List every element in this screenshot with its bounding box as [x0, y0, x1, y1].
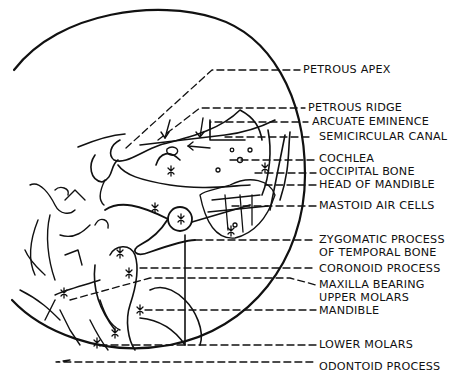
anatomy-diagram: PETROUS APEX PETROUS RIDGE ARCUATE EMINE…	[0, 0, 472, 379]
label-mastoid-air-cells: MASTOID AIR CELLS	[319, 200, 435, 212]
label-cochlea: COCHLEA	[319, 153, 374, 165]
label-semicircular-canal: SEMICIRCULAR CANAL	[319, 131, 447, 143]
label-mandible: MANDIBLE	[319, 305, 379, 317]
label-head-of-mandible: HEAD OF MANDIBLE	[319, 179, 435, 191]
leader-lines	[56, 70, 316, 362]
label-coronoid-process: CORONOID PROCESS	[319, 263, 440, 275]
label-lower-molars: LOWER MOLARS	[319, 339, 413, 351]
label-maxilla-bearing: MAXILLA BEARING	[319, 279, 425, 291]
label-petrous-apex: PETROUS APEX	[303, 64, 391, 76]
field-circle	[12, 10, 305, 348]
label-upper-molars: UPPER MOLARS	[319, 292, 409, 304]
label-odontoid-process: ODONTOID PROCESS	[319, 361, 440, 373]
arrows	[161, 118, 210, 150]
label-zygomatic-process: ZYGOMATIC PROCESS	[319, 234, 445, 246]
facial-bones	[20, 180, 120, 350]
label-arcuate-eminence: ARCUATE EMINENCE	[312, 116, 429, 128]
label-occipital-bone: OCCIPITAL BONE	[319, 166, 415, 178]
label-of-temporal-bone: OF TEMPORAL BONE	[319, 247, 437, 259]
asterisk-markers	[61, 163, 268, 348]
label-petrous-ridge: PETROUS RIDGE	[308, 102, 402, 114]
mastoid-cells	[200, 148, 275, 238]
